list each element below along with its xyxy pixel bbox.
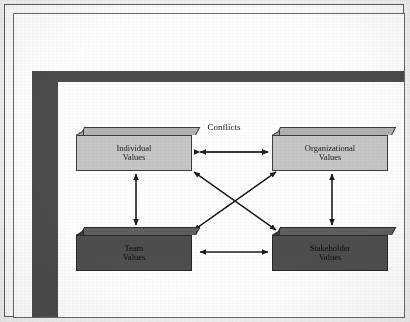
box-organizational-front-face: Organizational Values [272,135,388,171]
box-stakeholder-top-face [276,227,396,235]
box-team-front-face: Team Values [76,235,192,271]
box-individual-front-face: Individual Values [76,135,192,171]
box-organizational-top-face [276,127,396,135]
box-team-label-line2: Values [123,253,146,262]
box-individual-label-line2: Values [117,153,152,162]
sidebar-band-vertical [32,71,58,317]
box-organizational-label-line2: Values [305,153,355,162]
connector-arrows [58,82,410,317]
page-frame-outer: Conflicts Individual Values [4,4,404,317]
header-band-horizontal [32,71,404,82]
scanned-page: Conflicts Individual Values [0,0,410,322]
diagram-canvas: Conflicts Individual Values [58,82,410,317]
page-frame-inner: Conflicts Individual Values [13,13,405,318]
box-individual-top-face [80,127,200,135]
box-team-top-face [80,227,200,235]
box-stakeholder-front-face: Stakeholder Values [272,235,388,271]
box-stakeholder-label-line2: Values [310,253,351,262]
